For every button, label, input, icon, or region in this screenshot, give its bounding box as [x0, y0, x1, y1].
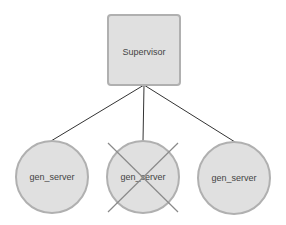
edge-supervisor-to-worker-3: [144, 85, 235, 142]
worker-label-3: gen_server: [211, 173, 256, 183]
supervisor-node: Supervisor: [108, 15, 180, 85]
supervision-tree-diagram: Supervisor gen_server gen_server gen_ser…: [0, 0, 286, 225]
worker-node-2-crashed: gen_server: [107, 141, 179, 213]
supervisor-label: Supervisor: [122, 47, 165, 57]
worker-node-3: gen_server: [198, 142, 270, 214]
worker-node-1: gen_server: [16, 141, 88, 213]
edge-supervisor-to-worker-2: [143, 85, 144, 141]
edge-supervisor-to-worker-1: [51, 85, 144, 141]
edges: [51, 85, 235, 142]
worker-label-1: gen_server: [29, 172, 74, 182]
